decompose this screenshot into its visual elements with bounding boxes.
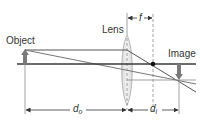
image-arrow-head-icon: [175, 74, 183, 80]
lens-label: Lens: [102, 24, 124, 35]
image-arrow-shaft: [177, 64, 181, 75]
object-arrow-shaft: [23, 54, 27, 64]
object-distance-label: do: [73, 103, 83, 115]
object-label: Object: [6, 35, 35, 46]
image-distance-label: di: [150, 103, 158, 115]
lens-diagram: f do di Object Lens Image: [0, 0, 204, 122]
focal-point: [151, 62, 156, 67]
image-label: Image: [168, 48, 196, 59]
focal-length-label: f: [139, 12, 143, 23]
